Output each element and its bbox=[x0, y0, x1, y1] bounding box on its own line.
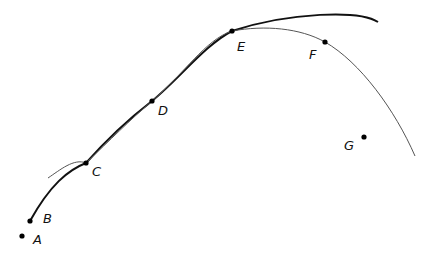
point-label-c: C bbox=[92, 165, 101, 178]
point-label-a: A bbox=[33, 233, 42, 246]
thick-curve bbox=[30, 15, 378, 221]
point-g bbox=[361, 134, 366, 139]
diagram-canvas bbox=[0, 0, 435, 255]
point-label-g: G bbox=[344, 139, 354, 152]
point-label-e: E bbox=[237, 40, 245, 53]
point-a bbox=[19, 233, 24, 238]
point-label-d: D bbox=[158, 104, 168, 117]
point-b bbox=[27, 218, 32, 223]
point-f bbox=[322, 39, 327, 44]
point-label-b: B bbox=[43, 212, 52, 225]
point-e bbox=[229, 28, 234, 33]
point-label-f: F bbox=[309, 48, 316, 61]
point-c bbox=[83, 160, 88, 165]
point-d bbox=[149, 98, 154, 103]
thin-curve bbox=[48, 28, 415, 178]
